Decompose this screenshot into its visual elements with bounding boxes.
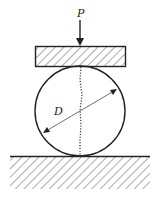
ground-support [10,157,150,190]
arrowhead-icon [43,127,50,133]
load-label: P [76,7,85,20]
top-plate [36,47,126,67]
vertical-dotted-line [80,67,82,156]
arrowhead-icon [110,89,117,95]
load-arrow [76,20,84,46]
diameter-label: D [53,105,63,118]
diagram-canvas: P D [0,0,158,200]
arrow-down-icon [76,38,84,46]
